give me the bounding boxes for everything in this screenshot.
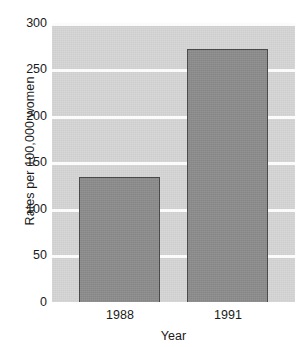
bar-1988 bbox=[79, 177, 160, 302]
y-tick-label-300: 300 bbox=[14, 17, 47, 29]
bar-chart-figure: Rates per 100,000 women 300 250 200 150 … bbox=[0, 0, 304, 347]
gridline-300 bbox=[52, 23, 295, 26]
y-tick-label-50: 50 bbox=[14, 249, 47, 261]
y-tick-label-250: 250 bbox=[14, 63, 47, 75]
x-axis-title: Year bbox=[52, 329, 295, 343]
bar-1991 bbox=[187, 49, 268, 302]
y-tick-label-100: 100 bbox=[14, 203, 47, 215]
plot-area bbox=[52, 23, 295, 302]
y-tick-label-200: 200 bbox=[14, 110, 47, 122]
y-tick-label-150: 150 bbox=[14, 156, 47, 168]
y-axis-tick-labels: 300 250 200 150 100 50 0 bbox=[14, 0, 47, 347]
y-tick-label-0: 0 bbox=[14, 296, 47, 308]
x-tick-label-1991: 1991 bbox=[160, 308, 296, 322]
